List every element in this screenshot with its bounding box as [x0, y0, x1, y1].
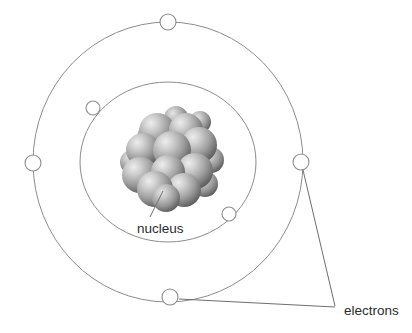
electron-outer-bottom	[162, 289, 178, 305]
atom-diagram-figure: nucleus electrons	[0, 0, 412, 333]
electron-inner-lower-right	[222, 207, 236, 221]
atom-diagram-canvas: nucleus electrons	[0, 0, 412, 333]
electrons-leader-line-right	[303, 170, 335, 306]
electrons-label: electrons	[344, 303, 399, 318]
electron-outer-left	[25, 155, 41, 171]
electrons-leader-line-bottom	[179, 299, 335, 307]
nucleon	[152, 184, 180, 212]
nucleus-label: nucleus	[137, 221, 184, 236]
nucleus-cluster	[120, 106, 224, 212]
electron-inner-upper-left	[86, 101, 100, 115]
electron-outer-top	[160, 14, 176, 30]
electron-outer-right	[293, 154, 309, 170]
